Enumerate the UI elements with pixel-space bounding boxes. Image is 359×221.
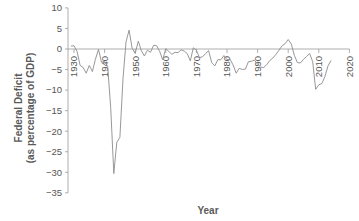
x-axis-title: Year (197, 205, 218, 216)
y-axis-title-line: Federal Deficit (13, 73, 24, 143)
series-group (71, 30, 331, 173)
y-tick-label: 10 (51, 2, 62, 13)
y-tick-label: −30 (46, 167, 62, 178)
x-tick-label: 2020 (344, 56, 355, 77)
y-axis-title-line: (as percentage of GDP) (25, 53, 36, 164)
y-axis-title: Federal Deficit(as percentage of GDP) (13, 53, 36, 164)
x-tick-label: 2000 (283, 56, 294, 77)
x-tick-label: 1950 (130, 56, 141, 77)
deficit-line-chart: 1050−5−10−15−20−25−30−35 193019401950196… (0, 0, 359, 221)
y-tick-label: −10 (46, 84, 62, 95)
y-tick-label: −35 (46, 187, 62, 198)
y-tick-label: −20 (46, 126, 62, 137)
y-tick-label: −25 (46, 146, 62, 157)
y-axis: 1050−5−10−15−20−25−30−35 (46, 2, 68, 198)
x-tick-label: 1960 (160, 56, 171, 77)
y-tick-label: 0 (57, 43, 62, 54)
x-axis: 1930194019501960197019801990200020102020 (68, 49, 355, 77)
y-tick-label: −5 (51, 64, 62, 75)
x-tick-label: 1970 (191, 56, 202, 77)
deficit-series-line (71, 30, 331, 173)
x-tick-label: 1990 (252, 56, 263, 77)
x-tick-label: 2010 (313, 56, 324, 77)
x-tick-label: 1930 (68, 56, 79, 77)
y-axis-title-text: Federal Deficit(as percentage of GDP) (13, 53, 36, 164)
y-tick-label: −15 (46, 105, 62, 116)
y-tick-label: 5 (57, 23, 62, 34)
